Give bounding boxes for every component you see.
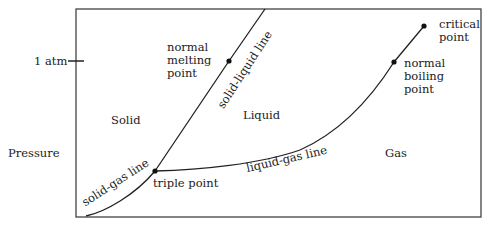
- gas-region-label: Gas: [385, 147, 407, 160]
- pressure-axis-label: Pressure: [8, 147, 60, 160]
- normal-melting-point-marker: [226, 58, 231, 63]
- normal-melting-point-label: normal melting point: [167, 41, 211, 80]
- one-atm-label: 1 atm: [34, 55, 67, 68]
- critical-point-label: critical point: [439, 18, 480, 44]
- solid-liquid-line: [155, 9, 265, 171]
- triple-point-label: triple point: [153, 177, 218, 190]
- normal-boiling-point-marker: [391, 59, 396, 64]
- triple-point-marker: [152, 168, 157, 173]
- normal-boiling-point-label: normal boiling point: [404, 57, 445, 96]
- liquid-region-label: Liquid: [243, 109, 280, 122]
- solid-region-label: Solid: [111, 114, 141, 127]
- critical-point-marker: [421, 23, 426, 28]
